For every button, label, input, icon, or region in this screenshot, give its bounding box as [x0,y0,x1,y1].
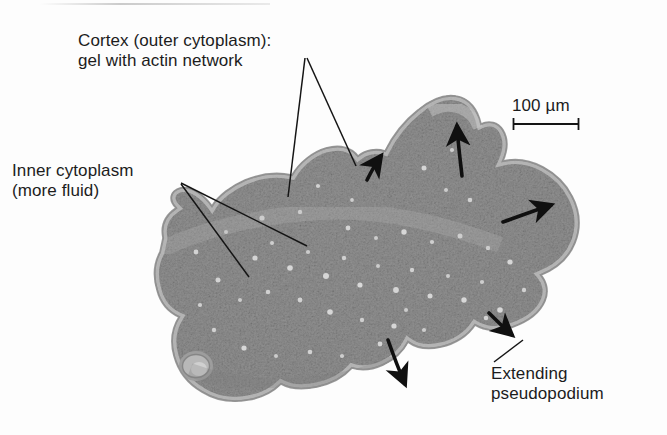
label-inner-cytoplasm-line2: (more fluid) [12,181,99,200]
label-inner-cytoplasm-line1: Inner cytoplasm [12,161,134,180]
scale-bar [513,118,579,130]
label-cortex: Cortex (outer cytoplasm): gel with actin… [78,31,271,71]
label-inner-cytoplasm: Inner cytoplasm (more fluid) [12,161,134,201]
label-cortex-line2: gel with actin network [78,51,243,70]
label-cortex-line1: Cortex (outer cytoplasm): [78,31,271,50]
label-extending-pseudopodium: Extending pseudopodium [491,364,604,404]
label-pseudopodium-line2: pseudopodium [491,384,604,403]
label-pseudopodium-line1: Extending [491,364,568,383]
pseudopodium-leader [494,340,523,362]
scale-bar-label: 100 µm [512,96,570,116]
